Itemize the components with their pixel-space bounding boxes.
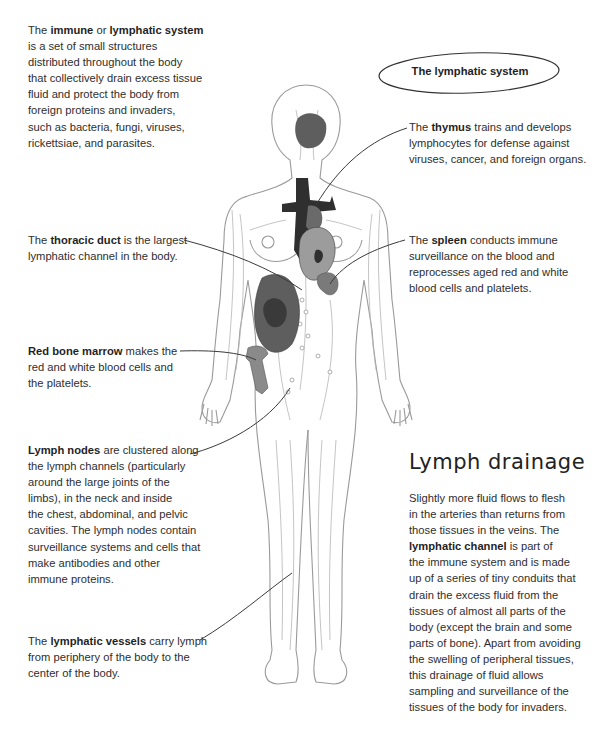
- text-line: fluid and protect the body from: [28, 86, 228, 102]
- term-red-bone-marrow: Red bone marrow: [28, 345, 123, 357]
- text: The: [28, 234, 50, 246]
- text: The: [28, 635, 50, 647]
- text: trains and develops: [471, 121, 571, 133]
- body-outline: [200, 85, 412, 684]
- text-line: body (except the brain and some: [409, 619, 609, 635]
- callout-spleen: The spleen conducts immune surveillance …: [409, 232, 609, 296]
- text: is the largest: [121, 234, 188, 246]
- text-line: blood cells and platelets.: [409, 280, 609, 296]
- callout-thoracic-duct: The thoracic duct is the largest lymphat…: [28, 232, 228, 264]
- drainage-paragraph: Slightly more fluid flows to flesh in th…: [409, 490, 609, 715]
- term-immune: immune: [50, 24, 93, 36]
- text-line: up of a series of tiny conduits that: [409, 570, 609, 586]
- text-line: from periphery of the body to the: [28, 649, 233, 665]
- term-lymphatic-channel: lymphatic channel: [409, 540, 507, 552]
- text: carry lymph: [146, 635, 207, 647]
- text-line: sampling and surveillance of the: [409, 683, 609, 699]
- text-line: center of the body.: [28, 665, 233, 681]
- text-line: tissues of almost all parts of the: [409, 603, 609, 619]
- term-spleen: spleen: [431, 234, 466, 246]
- text-line: surveillance systems and cells that: [28, 539, 228, 555]
- term-lymphatic-system: lymphatic system: [109, 24, 203, 36]
- text-line: distributed throughout the body: [28, 54, 228, 70]
- text-line: in the arteries than returns from: [409, 506, 609, 522]
- term-lymph-nodes: Lymph nodes: [28, 444, 100, 456]
- text-line: the platelets.: [28, 375, 228, 391]
- text-line: is a set of small structures: [28, 38, 228, 54]
- text-line: red and white blood cells and: [28, 359, 228, 375]
- leader-spleen: [330, 240, 405, 284]
- text-line: this drainage of fluid allows: [409, 667, 609, 683]
- term-lymphatic-vessels: lymphatic vessels: [50, 635, 146, 647]
- text-line: make antibodies and other: [28, 555, 228, 571]
- callout-lymphatic-vessels: The lymphatic vessels carry lymph from p…: [28, 633, 233, 681]
- text-line: those tissues in the veins. The: [409, 522, 609, 538]
- text-line: reprocesses aged red and white: [409, 264, 609, 280]
- callout-thymus: The thymus trains and develops lymphocyt…: [409, 119, 609, 167]
- text-line: such as bacteria, fungi, viruses,: [28, 119, 228, 135]
- femur-bone-marrow: [246, 346, 268, 394]
- text-line: the chest, abdominal, and pelvic: [28, 506, 228, 522]
- text-line: that collectively drain excess tissue: [28, 70, 228, 86]
- text: conducts immune: [467, 234, 558, 246]
- text-line: cavities. The lymph nodes contain: [28, 522, 228, 538]
- title-badge-label: The lymphatic system: [379, 65, 561, 77]
- text: The: [28, 24, 50, 36]
- text: is part of: [507, 540, 553, 552]
- text-line: limbs), in the neck and inside: [28, 490, 228, 506]
- section-heading-lymph-drainage: Lymph drainage: [409, 450, 585, 474]
- callout-lymph-nodes: Lymph nodes are clustered along the lymp…: [28, 442, 228, 587]
- term-thymus: thymus: [431, 121, 471, 133]
- text-line: the immune system and is made: [409, 554, 609, 570]
- text-line: viruses, cancer, and foreign organs.: [409, 151, 609, 167]
- text: are clustered along: [100, 444, 198, 456]
- text: The: [409, 121, 431, 133]
- text-line: Slightly more fluid flows to flesh: [409, 490, 609, 506]
- text: makes the: [123, 345, 178, 357]
- text-line: surveillance on the blood and: [409, 248, 609, 264]
- throat-tonsils: [295, 113, 326, 148]
- organs: [246, 113, 338, 394]
- text: or: [93, 24, 109, 36]
- text-line: immune proteins.: [28, 571, 228, 587]
- text-line: around the large joints of the: [28, 474, 228, 490]
- text-line: drain the excess fluid from the: [409, 587, 609, 603]
- text-line: parts of bone). Apart from avoiding: [409, 635, 609, 651]
- text-line: the lymph channels (particularly: [28, 458, 228, 474]
- term-thoracic-duct: thoracic duct: [50, 234, 120, 246]
- leader-thymus: [316, 128, 407, 205]
- text-line: the swelling of peripheral tissues,: [409, 651, 609, 667]
- intro-paragraph: The immune or lymphatic system is a set …: [28, 22, 228, 151]
- text-line: rickettsiae, and parasites.: [28, 135, 228, 151]
- text-line: lymphatic channel in the body.: [28, 248, 228, 264]
- text-line: lymphocytes for defense against: [409, 135, 609, 151]
- callout-bone-marrow: Red bone marrow makes the red and white …: [28, 343, 228, 391]
- text: The: [409, 234, 431, 246]
- spleen: [317, 273, 338, 295]
- text-line: tissues of the body for invaders.: [409, 699, 609, 715]
- title-badge: The lymphatic system: [379, 52, 561, 94]
- text-line: foreign proteins and invaders,: [28, 102, 228, 118]
